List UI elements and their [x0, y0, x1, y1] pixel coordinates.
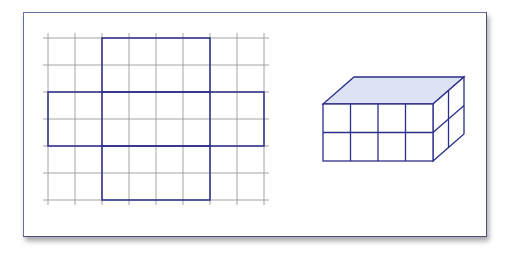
cuboid-3d [323, 77, 464, 161]
diagram-canvas [0, 0, 511, 256]
square-grid [43, 33, 269, 205]
